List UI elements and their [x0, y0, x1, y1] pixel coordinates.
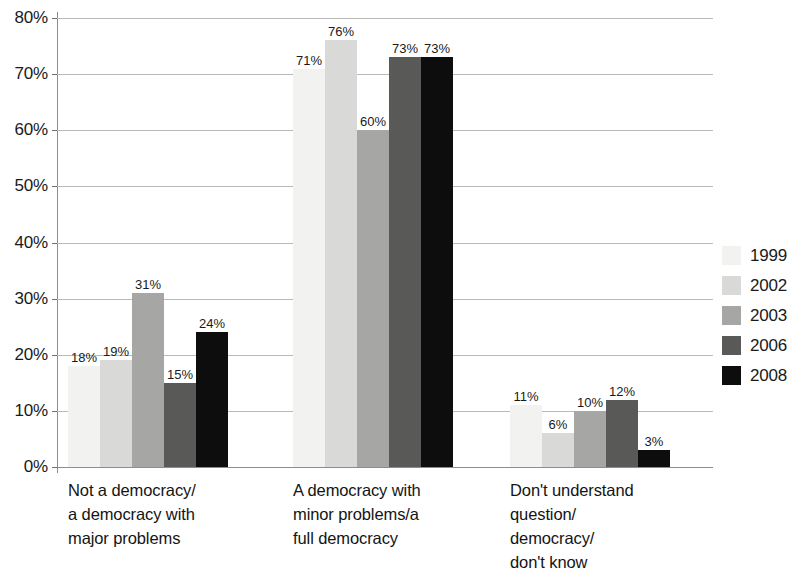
- bar-2008-group-3[interactable]: 3%: [638, 450, 670, 467]
- bar-2006-group-3[interactable]: 12%: [606, 400, 638, 467]
- y-axis-label-10: 10%: [0, 402, 48, 419]
- plot-area: 18%19%31%15%24%71%76%60%73%73%11%6%10%12…: [57, 18, 713, 467]
- category-label-line: Not a democracy/: [68, 478, 196, 502]
- category-label-line: Don't understand: [510, 478, 634, 502]
- bar-2008-group-1[interactable]: 24%: [196, 332, 228, 467]
- category-label-line: major problems: [68, 526, 196, 550]
- category-label-1: Not a democracy/a democracy withmajor pr…: [68, 478, 196, 550]
- bar-group-1: 18%19%31%15%24%: [68, 18, 228, 467]
- y-axis-label-20: 20%: [0, 346, 48, 363]
- y-axis-label-0: 0%: [0, 458, 48, 475]
- legend-swatch-icon: [722, 366, 741, 385]
- category-label-line: minor problems/a: [293, 502, 421, 526]
- bar-value-label: 71%: [296, 54, 322, 67]
- bar-group-2: 71%76%60%73%73%: [293, 18, 453, 467]
- bar-2006-group-1[interactable]: 15%: [164, 383, 196, 467]
- category-label-line: a democracy with: [68, 502, 196, 526]
- bar-value-label: 6%: [549, 418, 568, 431]
- bar-1999-group-2[interactable]: 71%: [293, 69, 325, 467]
- gridline-0: [57, 467, 713, 468]
- y-axis-label-60: 60%: [0, 121, 48, 138]
- bar-value-label: 24%: [199, 317, 225, 330]
- legend-item-2008[interactable]: 2008: [722, 360, 787, 390]
- bar-2003-group-2[interactable]: 60%: [357, 130, 389, 467]
- y-axis-label-30: 30%: [0, 290, 48, 307]
- bar-group-3: 11%6%10%12%3%: [510, 18, 670, 467]
- bar-2002-group-2[interactable]: 76%: [325, 40, 357, 467]
- bar-chart: 80%70%60%50%40%30%20%10%0% 18%19%31%15%2…: [0, 0, 787, 586]
- bar-value-label: 11%: [513, 390, 538, 403]
- category-label-line: A democracy with: [293, 478, 421, 502]
- bar-value-label: 10%: [577, 396, 603, 409]
- bar-value-label: 12%: [609, 385, 635, 398]
- legend-item-2002[interactable]: 2002: [722, 270, 787, 300]
- bar-value-label: 76%: [328, 25, 354, 38]
- legend: 19992002200320062008: [722, 240, 787, 390]
- y-axis-label-40: 40%: [0, 234, 48, 251]
- legend-swatch-icon: [722, 336, 741, 355]
- y-axis-label-80: 80%: [0, 9, 48, 26]
- legend-swatch-icon: [722, 276, 741, 295]
- category-label-line: democracy/: [510, 526, 634, 550]
- bar-value-label: 73%: [424, 42, 450, 55]
- bar-2002-group-1[interactable]: 19%: [100, 360, 132, 467]
- bar-value-label: 3%: [645, 435, 664, 448]
- legend-label: 2003: [750, 307, 787, 324]
- y-axis-label-50: 50%: [0, 177, 48, 194]
- legend-label: 2008: [750, 367, 787, 384]
- legend-swatch-icon: [722, 306, 741, 325]
- bar-value-label: 31%: [135, 278, 161, 291]
- category-label-line: don't know: [510, 550, 634, 574]
- bar-value-label: 73%: [392, 42, 418, 55]
- bar-1999-group-3[interactable]: 11%: [510, 405, 542, 467]
- bar-2006-group-2[interactable]: 73%: [389, 57, 421, 467]
- bar-value-label: 18%: [71, 351, 97, 364]
- legend-swatch-icon: [722, 246, 741, 265]
- category-label-3: Don't understandquestion/democracy/don't…: [510, 478, 634, 574]
- category-label-line: full democracy: [293, 526, 421, 550]
- bar-value-label: 60%: [360, 115, 386, 128]
- legend-label: 1999: [750, 247, 787, 264]
- legend-item-2006[interactable]: 2006: [722, 330, 787, 360]
- category-label-2: A democracy withminor problems/afull dem…: [293, 478, 421, 550]
- bar-value-label: 19%: [103, 345, 129, 358]
- legend-item-2003[interactable]: 2003: [722, 300, 787, 330]
- bar-value-label: 15%: [167, 368, 193, 381]
- bar-2003-group-3[interactable]: 10%: [574, 411, 606, 467]
- bar-2003-group-1[interactable]: 31%: [132, 293, 164, 467]
- bar-2002-group-3[interactable]: 6%: [542, 433, 574, 467]
- legend-label: 2002: [750, 277, 787, 294]
- bar-2008-group-2[interactable]: 73%: [421, 57, 453, 467]
- legend-item-1999[interactable]: 1999: [722, 240, 787, 270]
- category-label-line: question/: [510, 502, 634, 526]
- bar-1999-group-1[interactable]: 18%: [68, 366, 100, 467]
- y-axis-label-70: 70%: [0, 65, 48, 82]
- legend-label: 2006: [750, 337, 787, 354]
